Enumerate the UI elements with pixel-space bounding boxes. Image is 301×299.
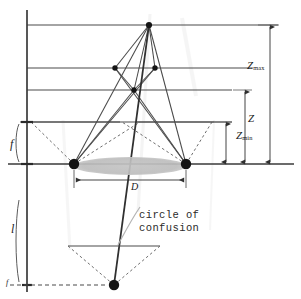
dash-image-right [114,246,160,285]
label-circle-of-confusion: circle ofconfusion [139,209,199,235]
lens-edge-node-right [181,159,191,169]
dash-image-left [68,246,114,285]
image-point-node [109,280,119,290]
diagram-canvas [0,0,301,299]
label-z-min: Zmin [236,130,253,142]
dash-left-up [31,122,74,164]
object-node-right [152,65,157,70]
ray-bundle [74,25,186,164]
ray-center-to-lens-left [74,90,134,164]
label-z: Z [248,113,254,124]
object-apex-node [146,22,152,28]
label-image-distance-l: l [11,223,14,235]
focal-length-brace [16,124,19,162]
label-focal-length-f-prime: f [6,279,8,287]
coc-line-2: confusion [139,222,199,234]
lens-element [74,157,186,175]
label-focal-length-f: f [10,138,13,150]
dash-right-up [186,122,212,164]
label-z-max: Zmax [247,60,265,72]
optics-diagram: Zmax Z Zmin D f l f circle ofconfusion [0,0,301,299]
object-node-left [112,65,117,70]
lens-edge-node-left [69,159,79,169]
object-node-center [131,87,136,92]
image-distance-brace [16,200,19,282]
ray-apex-to-node-right [149,25,155,68]
label-aperture-d: D [131,182,138,192]
coc-line-1: circle of [139,209,199,221]
